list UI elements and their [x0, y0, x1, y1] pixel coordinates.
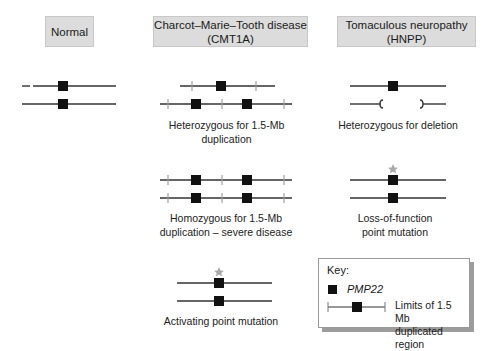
label-lof-line1: Loss-of-function: [340, 211, 450, 225]
star-icon: [388, 164, 398, 174]
label-het-del: Heterozygous for deletion: [333, 118, 463, 132]
activating-pair: [177, 283, 272, 301]
label-activating-line1: Activating point mutation: [160, 314, 282, 328]
label-lof-line2: point mutation: [340, 225, 450, 239]
normal-pair: [22, 86, 116, 104]
key-limits-line1: Limits of 1.5 Mb: [395, 299, 469, 325]
label-lof: Loss-of-function point mutation: [340, 211, 450, 239]
label-hom-dup: Homozygous for 1.5-Mb duplication – seve…: [150, 211, 302, 239]
legend-key: Key: PMP22 Limits of 1.5 Mb duplicated r…: [318, 258, 470, 328]
star-icon: [214, 267, 224, 277]
label-het-dup: Heterozygous for 1.5-Mb duplication: [160, 118, 293, 146]
key-limits-line2: duplicated region: [395, 325, 469, 351]
label-hom-dup-line2: duplication – severe disease: [150, 225, 302, 239]
label-het-dup-line1: Heterozygous for 1.5-Mb: [160, 118, 293, 132]
label-hom-dup-line1: Homozygous for 1.5-Mb: [150, 211, 302, 225]
label-het-del-line1: Heterozygous for deletion: [333, 118, 463, 132]
label-activating: Activating point mutation: [160, 314, 282, 328]
cmt1a-hom-pair: [160, 180, 292, 198]
key-limits-label: Limits of 1.5 Mb duplicated region: [395, 299, 469, 351]
label-het-dup-line2: duplication: [160, 132, 293, 146]
